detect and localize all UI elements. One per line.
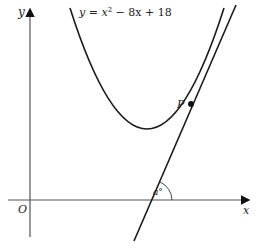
parabola-curve (70, 8, 224, 129)
tangent-line (134, 5, 236, 241)
origin-label: O (18, 203, 27, 216)
point-p-label: P (176, 98, 185, 111)
x-axis-label: x (243, 204, 250, 217)
point-p-marker (188, 101, 194, 107)
curve-equation: y = x2 − 8x + 18 (78, 6, 172, 19)
y-axis-label: y (17, 5, 25, 19)
diagram-canvas: y x O P a° y = x2 − 8x + 18 (0, 0, 260, 249)
angle-label: a° (153, 187, 163, 197)
